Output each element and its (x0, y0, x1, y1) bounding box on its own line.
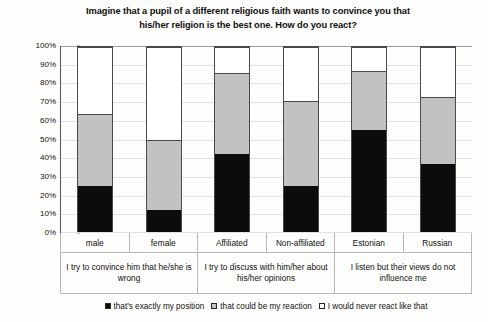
category-label: Estonian (335, 233, 404, 252)
category-label: female (130, 233, 199, 252)
category-label-row: malefemaleAffiliatedNon-affiliatedEstoni… (61, 233, 471, 253)
group-label: I try to convince him that he/she is wro… (61, 253, 198, 293)
bar-slot (61, 46, 130, 232)
chart-legend: that's exactly my positionthat could be … (60, 298, 472, 314)
category-label: Russian (404, 233, 472, 252)
category-label: Non-affiliated (267, 233, 336, 252)
bar-segment[interactable] (215, 73, 249, 154)
title-line-1: Imagine that a pupil of a different reli… (52, 5, 444, 19)
bar-segment[interactable] (284, 47, 318, 101)
bar-slot (404, 46, 473, 232)
bar-segment[interactable] (78, 114, 112, 186)
bar-segment[interactable] (352, 130, 386, 232)
stacked-bar[interactable] (351, 46, 387, 232)
y-axis-tick-label: 30% (40, 173, 56, 181)
group-label: I listen but their views do not influenc… (335, 253, 471, 293)
stacked-bar[interactable] (214, 46, 250, 232)
y-axis-tick-label: 80% (40, 79, 56, 87)
y-axis-tick-label: 100% (36, 42, 56, 50)
bar-segment[interactable] (147, 210, 181, 232)
plot-area (60, 46, 472, 233)
legend-swatch-icon (105, 303, 111, 309)
bar-segment[interactable] (215, 154, 249, 232)
group-label-row: I try to convince him that he/she is wro… (61, 253, 471, 293)
category-axis-band: malefemaleAffiliatedNon-affiliatedEstoni… (60, 233, 472, 294)
stacked-bar[interactable] (283, 46, 319, 232)
bar-segment[interactable] (352, 71, 386, 130)
bar-segment[interactable] (78, 186, 112, 232)
bar-slot (130, 46, 199, 232)
legend-item[interactable]: that could be my reaction (211, 302, 311, 311)
y-axis: 0%10%20%30%40%50%60%70%80%90%100% (20, 40, 56, 228)
bar-segment[interactable] (147, 47, 181, 140)
y-axis-tick-label: 60% (40, 117, 56, 125)
stacked-bar[interactable] (77, 46, 113, 232)
y-axis-tick-label: 10% (40, 210, 56, 218)
bar-segment[interactable] (284, 186, 318, 232)
bar-segment[interactable] (284, 101, 318, 186)
bar-slot (198, 46, 267, 232)
y-axis-tick-label: 70% (40, 98, 56, 106)
legend-label: that could be my reaction (220, 302, 311, 311)
page-title: Imagine that a pupil of a different reli… (52, 5, 444, 32)
chart-plot-wrapper: 0%10%20%30%40%50%60%70%80%90%100% (0, 40, 488, 240)
category-label: male (61, 233, 130, 252)
legend-swatch-icon (319, 303, 325, 309)
y-axis-tick-label: 40% (40, 154, 56, 162)
y-axis-tick-label: 0% (44, 229, 56, 237)
legend-label: I would never react like that (328, 302, 428, 311)
bar-segment[interactable] (421, 47, 455, 97)
stacked-bar[interactable] (146, 46, 182, 232)
bar-segment[interactable] (215, 47, 249, 73)
bar-segment[interactable] (352, 47, 386, 71)
group-label: I try to discuss with him/her about his/… (198, 253, 335, 293)
bar-slot (267, 46, 336, 232)
stacked-bar[interactable] (420, 46, 456, 232)
bar-segment[interactable] (421, 164, 455, 232)
bar-segment[interactable] (147, 140, 181, 210)
legend-swatch-icon (211, 303, 217, 309)
legend-label: that's exactly my position (114, 302, 205, 311)
title-line-2: his/her religion is the best one. How do… (52, 19, 444, 33)
category-label: Affiliated (198, 233, 267, 252)
bar-segment[interactable] (421, 97, 455, 164)
y-axis-tick-label: 90% (40, 61, 56, 69)
bar-series-container (61, 46, 472, 232)
legend-item[interactable]: that's exactly my position (105, 302, 205, 311)
bar-slot (335, 46, 404, 232)
y-axis-tick-label: 50% (40, 136, 56, 144)
bar-segment[interactable] (78, 47, 112, 114)
legend-item[interactable]: I would never react like that (319, 302, 428, 311)
y-axis-tick-label: 20% (40, 192, 56, 200)
